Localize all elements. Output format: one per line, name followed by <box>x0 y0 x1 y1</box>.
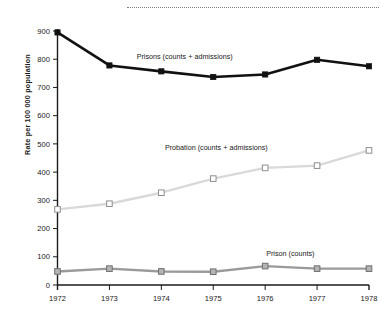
data-point-marker <box>159 269 165 275</box>
y-axis-tick-group: 0100200300400500600700800900 <box>37 27 57 290</box>
data-point-marker <box>107 266 113 272</box>
x-tick-label: 1976 <box>257 294 274 303</box>
data-point-marker <box>262 165 268 171</box>
data-point-marker <box>107 63 112 68</box>
data-point-marker <box>107 201 113 207</box>
x-tick-label: 1977 <box>309 294 326 303</box>
x-tick-label: 1978 <box>361 294 378 303</box>
y-tick-label: 0 <box>46 281 50 290</box>
data-point-marker <box>366 266 372 272</box>
data-point-marker <box>55 207 61 213</box>
y-tick-label: 600 <box>37 111 50 120</box>
y-tick-label: 100 <box>37 252 50 261</box>
data-point-marker <box>263 72 268 77</box>
x-tick-label: 1973 <box>101 294 118 303</box>
x-tick-label: 1972 <box>49 294 66 303</box>
data-point-marker <box>210 176 216 182</box>
y-tick-label: 400 <box>37 168 50 177</box>
y-tick-label: 900 <box>37 27 50 36</box>
data-point-marker <box>262 263 268 269</box>
y-tick-label: 500 <box>37 140 50 149</box>
y-tick-label: 800 <box>37 55 50 64</box>
y-tick-label: 200 <box>37 224 50 233</box>
data-point-marker <box>314 163 320 169</box>
axis-lines <box>58 29 370 290</box>
series-annotation-label: Probation (counts + admissions) <box>165 143 268 152</box>
y-tick-label: 700 <box>37 83 50 92</box>
x-tick-label: 1974 <box>153 294 170 303</box>
data-point-marker <box>55 30 60 35</box>
data-point-marker <box>210 269 216 275</box>
chart-figure: Rate per 100 000 population 010020030040… <box>0 0 382 314</box>
series-annotation-label: Prisons (counts + admissions) <box>137 52 233 61</box>
data-point-marker <box>55 269 61 275</box>
data-point-marker <box>211 74 216 79</box>
data-point-marker <box>314 57 319 62</box>
x-axis-tick-group: 1972197319741975197619771978 <box>49 285 377 303</box>
line-chart-plot: 0100200300400500600700800900 19721973197… <box>0 0 382 314</box>
y-tick-label: 300 <box>37 196 50 205</box>
data-point-marker <box>159 69 164 74</box>
data-point-marker <box>314 266 320 272</box>
series-label-group: Prisons (counts + admissions)Probation (… <box>137 52 315 258</box>
series-annotation-label: Prison (counts) <box>266 249 314 258</box>
data-point-marker <box>366 148 372 154</box>
data-point-marker <box>159 190 165 196</box>
data-point-marker <box>366 64 371 69</box>
series-marker-group <box>55 30 372 275</box>
x-tick-label: 1975 <box>205 294 222 303</box>
